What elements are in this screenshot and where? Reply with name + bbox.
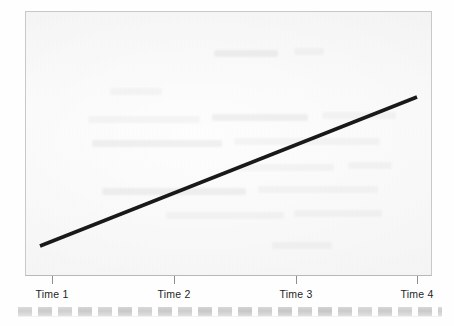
scan-edge-dash <box>258 307 272 316</box>
scan-edge-dash <box>198 307 212 316</box>
trend-line-svg <box>0 0 454 326</box>
scan-edge-dash <box>58 307 72 316</box>
scan-edge-dash <box>178 307 192 316</box>
scan-edge-dash <box>138 307 152 316</box>
scan-edge-dash <box>118 307 132 316</box>
scan-edge-dash <box>218 307 232 316</box>
x-axis-label-time-1: Time 1 <box>22 288 82 300</box>
x-axis-tick-3 <box>296 276 297 284</box>
scan-edge-dash <box>38 307 52 316</box>
scan-edge-dash <box>338 307 352 316</box>
scan-edge-dash <box>18 307 32 316</box>
x-axis-tick-1 <box>52 276 53 284</box>
scan-edge-dash <box>398 307 412 316</box>
scan-edge-dash <box>298 307 312 316</box>
scan-edge-dash <box>438 307 442 316</box>
scan-edge-dash <box>318 307 332 316</box>
x-axis-tick-2 <box>174 276 175 284</box>
scan-edge-dash <box>98 307 112 316</box>
scan-edge-dash <box>238 307 252 316</box>
x-axis-label-time-4: Time 4 <box>387 288 447 300</box>
scan-edge-dash <box>78 307 92 316</box>
scan-edge-dash <box>278 307 292 316</box>
x-axis-tick-4 <box>417 276 418 284</box>
trend-line <box>40 97 417 246</box>
scan-edge-dash <box>378 307 392 316</box>
x-axis-label-time-3: Time 3 <box>266 288 326 300</box>
scan-edge-dash <box>418 307 432 316</box>
x-axis-label-time-2: Time 2 <box>144 288 204 300</box>
line-chart-figure: Time 1 Time 2 Time 3 Time 4 <box>0 0 454 326</box>
scan-edge-dash <box>158 307 172 316</box>
scan-edge-artifact <box>18 307 442 316</box>
scan-edge-hairline <box>18 316 442 317</box>
scanned-page: Time 1 Time 2 Time 3 Time 4 <box>0 0 454 326</box>
scan-edge-dash <box>358 307 372 316</box>
